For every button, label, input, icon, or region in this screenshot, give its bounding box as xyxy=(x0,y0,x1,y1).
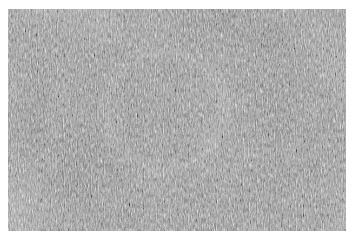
image-canvas xyxy=(0,0,355,242)
noise-panel xyxy=(8,9,346,231)
vignette-layer xyxy=(8,9,346,231)
